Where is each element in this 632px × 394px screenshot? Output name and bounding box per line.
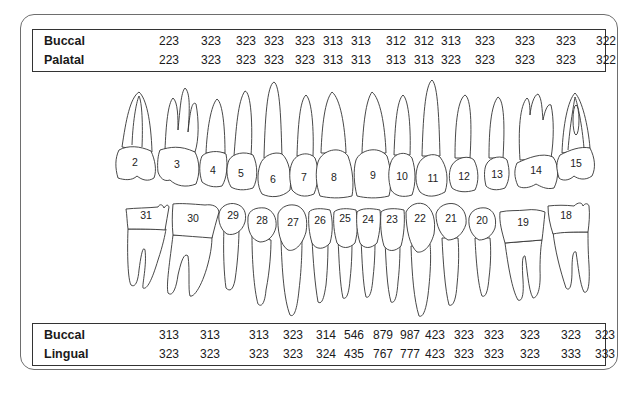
- lower-lingual-row: Lingual 323 323 323 323 324 435 767 777 …: [33, 344, 605, 364]
- cell: 423: [425, 325, 445, 345]
- cell: 314: [316, 325, 336, 345]
- tooth-12: 12: [449, 95, 478, 192]
- tooth-27: 27: [278, 205, 307, 316]
- cell: 323: [283, 325, 303, 345]
- svg-text:6: 6: [270, 173, 276, 185]
- cell: 323: [249, 344, 269, 364]
- tooth-10: 10: [389, 95, 415, 196]
- svg-text:12: 12: [458, 170, 470, 182]
- cell: 987: [400, 325, 420, 345]
- svg-text:4: 4: [210, 164, 216, 176]
- tooth-6: 6: [258, 82, 291, 197]
- cell: 323: [520, 344, 540, 364]
- tooth-11: 11: [416, 80, 447, 196]
- cell: 879: [373, 325, 393, 345]
- cell: 333: [595, 344, 615, 364]
- svg-text:5: 5: [238, 167, 244, 179]
- tooth-7: 7: [290, 95, 318, 196]
- row-label: Buccal: [44, 325, 85, 345]
- cell: 546: [344, 325, 364, 345]
- lower-probing-table: Buccal 313 313 313 323 314 546 879 987 4…: [32, 323, 606, 366]
- lower-buccal-row: Buccal 313 313 313 323 314 546 879 987 4…: [33, 325, 605, 345]
- tooth-19: 19: [500, 210, 545, 301]
- cell: 313: [159, 325, 179, 345]
- svg-text:28: 28: [256, 214, 268, 226]
- cell: 313: [249, 325, 269, 345]
- cell: 333: [561, 344, 581, 364]
- tooth-4: 4: [200, 99, 227, 187]
- svg-text:13: 13: [491, 168, 503, 180]
- svg-text:8: 8: [331, 171, 337, 183]
- svg-text:10: 10: [396, 170, 408, 182]
- tooth-14: 14: [515, 94, 558, 189]
- cell: 323: [454, 344, 474, 364]
- tooth-20: 20: [469, 208, 496, 296]
- svg-text:21: 21: [445, 212, 457, 224]
- tooth-8: 8: [316, 92, 353, 198]
- tooth-31: 31: [126, 205, 169, 288]
- cell: 767: [373, 344, 393, 364]
- svg-text:27: 27: [287, 216, 299, 228]
- cell: 324: [316, 344, 336, 364]
- tooth-22: 22: [406, 203, 435, 316]
- svg-text:26: 26: [314, 214, 326, 226]
- cell: 323: [454, 325, 474, 345]
- svg-text:24: 24: [362, 213, 374, 225]
- svg-text:3: 3: [174, 158, 180, 170]
- tooth-13: 13: [485, 97, 510, 190]
- tooth-18: 18: [548, 203, 589, 292]
- tooth-15: 15: [557, 93, 595, 180]
- svg-text:2: 2: [132, 156, 138, 168]
- svg-text:25: 25: [339, 212, 351, 224]
- svg-text:29: 29: [227, 209, 239, 221]
- svg-text:23: 23: [386, 213, 398, 225]
- svg-text:11: 11: [428, 172, 439, 184]
- row-label: Lingual: [44, 344, 88, 364]
- tooth-23: 23: [381, 209, 405, 303]
- svg-text:15: 15: [570, 157, 582, 169]
- cell: 323: [484, 325, 504, 345]
- cell: 323: [561, 325, 581, 345]
- svg-text:7: 7: [301, 171, 307, 183]
- cell: 313: [200, 325, 220, 345]
- cell: 323: [283, 344, 303, 364]
- tooth-3: 3: [158, 88, 199, 186]
- cell: 435: [344, 344, 364, 364]
- svg-text:18: 18: [560, 209, 572, 221]
- svg-text:22: 22: [414, 212, 426, 224]
- tooth-25: 25: [334, 209, 358, 299]
- tooth-28: 28: [248, 208, 276, 305]
- svg-text:19: 19: [517, 216, 529, 228]
- cell: 323: [159, 344, 179, 364]
- cell: 323: [520, 325, 540, 345]
- svg-text:20: 20: [476, 214, 488, 226]
- tooth-21: 21: [436, 203, 466, 305]
- tooth-26: 26: [309, 209, 333, 303]
- cell: 323: [200, 344, 220, 364]
- cell: 423: [425, 344, 445, 364]
- tooth-9: 9: [354, 92, 391, 198]
- tooth-5: 5: [227, 91, 257, 190]
- tooth-24: 24: [357, 209, 381, 298]
- tooth-30: 30: [167, 204, 219, 297]
- tooth-29: 29: [219, 203, 246, 289]
- cell: 323: [595, 325, 615, 345]
- cell: 777: [400, 344, 420, 364]
- cell: 323: [484, 344, 504, 364]
- svg-text:30: 30: [187, 212, 199, 224]
- svg-text:9: 9: [370, 169, 376, 181]
- tooth-2: 2: [116, 92, 156, 180]
- svg-text:31: 31: [140, 209, 152, 221]
- svg-text:14: 14: [530, 164, 542, 176]
